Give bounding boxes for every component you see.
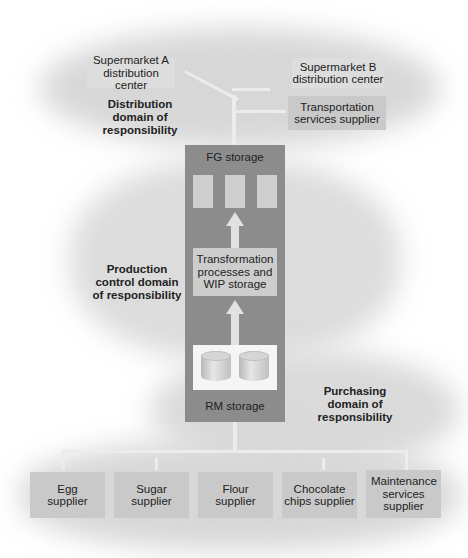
production-container: FG storage Transformation processes and … bbox=[185, 145, 285, 422]
supermarket-b-node: Supermarket B distribution center bbox=[292, 58, 384, 88]
fg-bin bbox=[257, 175, 277, 208]
supplier-label: Sugar supplier bbox=[127, 483, 177, 508]
transport-supplier-label: Transportation services supplier bbox=[288, 101, 386, 126]
rm-storage-panel bbox=[193, 345, 277, 390]
connector-line bbox=[233, 422, 237, 452]
arrow-up-icon bbox=[226, 300, 244, 314]
connector-line bbox=[62, 450, 65, 470]
supplier-label: Chocolate chips supplier bbox=[284, 483, 356, 508]
connector-line bbox=[405, 450, 408, 470]
arrow-up-icon bbox=[226, 212, 244, 226]
supplier-label: Maintenance services supplier bbox=[371, 475, 436, 513]
connector-line bbox=[155, 458, 158, 470]
supplier-maintenance: Maintenance services supplier bbox=[366, 470, 441, 518]
supplier-flour: Flour supplier bbox=[198, 472, 273, 518]
production-domain-label: Production control domain of responsibil… bbox=[92, 263, 182, 302]
arrow-shaft bbox=[231, 313, 239, 345]
connector-line bbox=[232, 88, 270, 91]
supplier-label: Egg supplier bbox=[43, 483, 93, 508]
storage-cylinder-icon bbox=[201, 351, 231, 385]
supermarket-a-node: Supermarket A distribution center bbox=[87, 58, 175, 88]
distribution-domain-label: Distribution domain of responsibility bbox=[100, 98, 180, 137]
transport-supplier-node: Transportation services supplier bbox=[288, 96, 386, 130]
transformation-label: Transformation processes and WIP storage bbox=[193, 253, 277, 291]
connector-line bbox=[232, 95, 236, 145]
connector-line bbox=[322, 458, 325, 470]
fg-storage-label: FG storage bbox=[185, 151, 285, 163]
fg-bin bbox=[225, 175, 245, 208]
supermarket-a-label: Supermarket A distribution center bbox=[87, 54, 175, 92]
purchasing-domain-label: Purchasing domain of responsibility bbox=[315, 385, 395, 424]
connector-line bbox=[62, 450, 408, 453]
supplier-label: Flour supplier bbox=[211, 483, 261, 508]
supplier-chocolate-chips: Chocolate chips supplier bbox=[282, 472, 357, 518]
rm-storage-label: RM storage bbox=[185, 400, 285, 412]
storage-cylinder-icon bbox=[239, 351, 269, 385]
supplier-sugar: Sugar supplier bbox=[114, 472, 189, 518]
supermarket-b-label: Supermarket B distribution center bbox=[292, 61, 384, 86]
arrow-shaft bbox=[231, 225, 239, 248]
connector-line bbox=[236, 110, 286, 113]
transformation-node: Transformation processes and WIP storage bbox=[193, 248, 277, 296]
supplier-egg: Egg supplier bbox=[30, 472, 105, 518]
fg-bin bbox=[193, 175, 213, 208]
